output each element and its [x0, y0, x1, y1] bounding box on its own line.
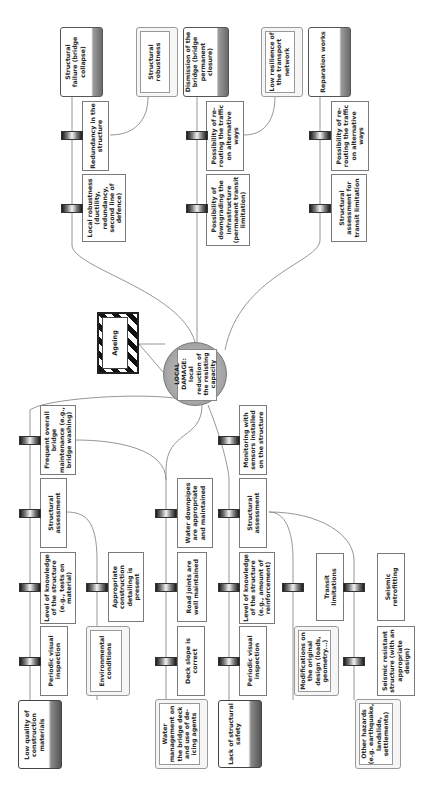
barrier-downgrading: Possibility of downgrading the infrastru… — [206, 174, 250, 246]
barrier-redundancy: Redundancy in the structure — [82, 101, 109, 171]
barrier-road-joints: Road joints are well maintained — [177, 552, 207, 622]
barrier-icon — [309, 204, 331, 213]
barrier-water-downpipes: Water downpipes are appropriate and main… — [177, 478, 213, 548]
barrier-monitoring-sensors: Monitoring with sensors installed on the… — [239, 405, 267, 475]
escalation-environmental-conditions: Environmental conditions — [86, 626, 130, 696]
consequence-structural-failure: Structural failure (bridge collapse) — [60, 27, 103, 97]
barrier-icon — [343, 583, 365, 592]
barrier-icon — [218, 657, 240, 666]
threat-water-management: Water management on the bridge deck and … — [155, 699, 208, 769]
barrier-icon — [61, 131, 83, 140]
barrier-icon — [155, 583, 177, 592]
consequence-reparation-works: Reparation works — [308, 27, 351, 97]
barrier-icon — [218, 583, 240, 592]
hazard-ageing: Ageing — [97, 312, 139, 374]
barrier-icon — [61, 204, 83, 213]
barrier-icon — [155, 657, 177, 666]
barrier-rerouting-1: Possibility of re-routing the traffic on… — [206, 101, 244, 171]
escalation-structural-robustness: Structural robustness — [136, 27, 178, 97]
barrier-icon — [86, 583, 108, 592]
barrier-icon — [218, 509, 240, 518]
barrier-structural-assessment-2: Structural assessment — [239, 478, 267, 548]
bow-tie-diagram: Structural failure (bridge collapse) Str… — [0, 0, 424, 796]
threat-lack-structural-safety: Lack of structural safety — [218, 700, 262, 768]
barrier-seismic-resistant: Seismic resistant structure (with an app… — [377, 626, 415, 696]
top-event-local-damage: LOCAL DAMAGE: local reduction of the res… — [163, 342, 227, 406]
barrier-knowledge-material: Level of knowledge of the structure (e.g… — [40, 552, 76, 624]
barrier-structural-assessment-1: Structural assessment — [40, 478, 67, 548]
barrier-icon — [19, 436, 41, 445]
barrier-icon — [309, 131, 331, 140]
barrier-local-robustness: Local robustness (ductility, redundancy,… — [82, 174, 126, 242]
barrier-icon — [186, 204, 208, 213]
barrier-construction-detailing: Appropriate construction detailing is pr… — [108, 552, 144, 622]
barrier-rerouting-2: Possibility of re-routing the traffic on… — [331, 101, 369, 171]
threat-low-quality-materials: Low quality of construction materials — [18, 700, 62, 769]
barrier-seismic-retrofitting: Seismic retrofitting — [377, 553, 405, 621]
barrier-icon — [19, 657, 41, 666]
barrier-periodic-inspection-1: Periodic visual inspection — [40, 626, 68, 696]
threat-other-hazards: Other hazards (e.g. earthquake, landslid… — [355, 699, 401, 769]
escalation-low-resilience: Low resilience of the transport network — [261, 27, 303, 97]
barrier-deck-slope: Deck slope is correct — [177, 626, 205, 696]
barrier-icon — [343, 657, 365, 666]
escalation-modifications: Modifications on the original design (lo… — [294, 626, 339, 696]
barrier-icon — [155, 509, 177, 518]
barrier-structural-assessment-transit: Structural assessment for transit limita… — [331, 174, 367, 242]
barrier-transit-limitations: Transit limitations — [316, 553, 344, 621]
barrier-icon — [282, 583, 304, 592]
barrier-frequent-maintenance: Frequent overall bridge maintenance (e.g… — [40, 405, 76, 475]
consequence-dismission: Dismission of the bridge (bridge permane… — [183, 27, 229, 97]
barrier-knowledge-reinforcement: Level of knowledge of the structure (e.g… — [239, 552, 275, 624]
barrier-icon — [19, 509, 41, 518]
barrier-icon — [218, 436, 240, 445]
barrier-icon — [19, 583, 41, 592]
barrier-icon — [186, 131, 208, 140]
barrier-periodic-inspection-2: Periodic visual inspection — [239, 626, 267, 696]
